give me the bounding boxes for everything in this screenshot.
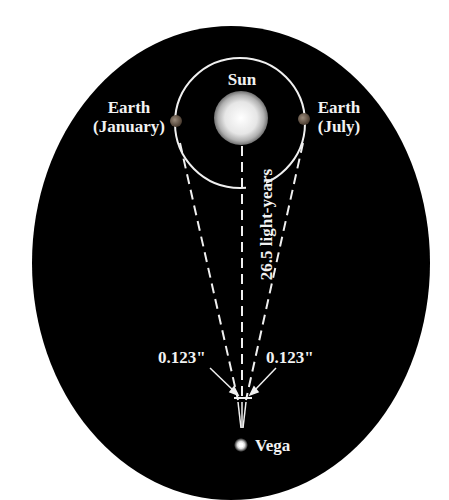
earth-july-label: Earth (July) [310,98,368,136]
vega-label: Vega [255,436,290,455]
parallax-right-label: 0.123" [266,348,314,367]
sun-label: Sun [221,70,263,89]
sun-icon [214,91,268,145]
earth-january-line2: (January) [84,117,174,136]
parallax-left-label: 0.123" [158,348,206,367]
earth-july-line1: Earth [310,98,368,117]
earth-july-line2: (July) [310,117,368,136]
distance-label: 26.5 light-years [257,155,276,295]
earth-january-label: Earth (January) [84,98,174,136]
earth-july-icon [298,113,310,125]
earth-january-line1: Earth [84,98,174,117]
